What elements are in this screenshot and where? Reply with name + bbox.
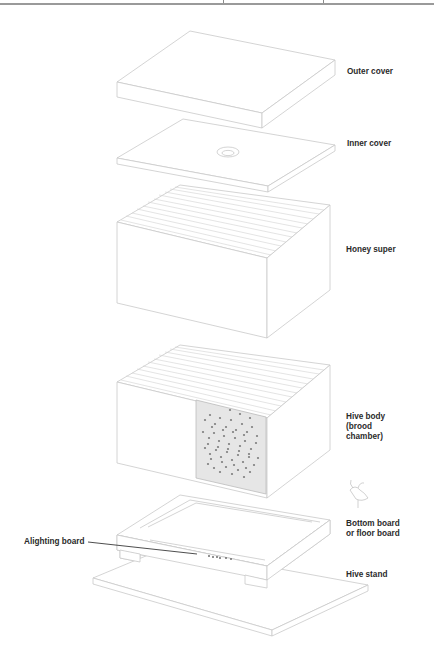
- label-outer-cover: Outer cover: [347, 67, 393, 77]
- label-alighting-board: Alighting board: [24, 537, 85, 547]
- label-inner-cover: Inner cover: [347, 139, 391, 149]
- label-hive-body-line1: Hive body: [346, 412, 385, 422]
- label-honey-super: Honey super: [346, 245, 396, 255]
- label-hive-stand: Hive stand: [346, 570, 387, 580]
- outer-cover-part: [117, 31, 335, 128]
- hive-body-part: [117, 345, 330, 498]
- label-bottom-board-line1: Bottom board: [346, 519, 400, 529]
- honey-super-part: [117, 185, 330, 338]
- label-hive-body-line2: (brood: [346, 422, 385, 432]
- label-hive-body: Hive body (brood chamber): [346, 412, 385, 442]
- flying-bee-icon: [350, 480, 368, 508]
- brood-frame: [196, 400, 266, 494]
- label-bottom-board: Bottom board or floor board: [346, 519, 400, 539]
- label-hive-body-line3: chamber): [346, 432, 385, 442]
- inner-cover-part: [117, 119, 335, 192]
- label-bottom-board-line2: or floor board: [346, 529, 400, 539]
- beehive-exploded-diagram: [0, 0, 434, 647]
